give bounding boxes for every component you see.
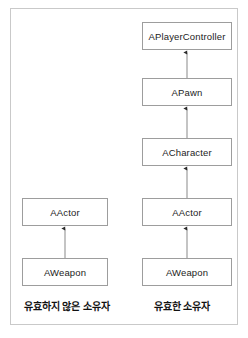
class-box-aweapon-left[interactable]: AWeapon (22, 258, 108, 286)
class-box-aweapon-right[interactable]: AWeapon (142, 258, 232, 286)
class-box-aplayercontroller[interactable]: APlayerController (142, 22, 232, 50)
class-box-aactor-right[interactable]: AActor (142, 198, 232, 226)
class-box-label: AActor (172, 207, 201, 218)
class-box-label: AActor (50, 207, 79, 218)
class-box-label: APlayerController (149, 31, 226, 42)
class-box-label: AWeapon (166, 267, 208, 278)
class-box-label: APawn (172, 87, 203, 98)
class-box-label: ACharacter (162, 147, 212, 158)
class-box-label: AWeapon (44, 267, 86, 278)
diagram-root: APlayerController APawn ACharacter AActo… (0, 0, 248, 338)
class-box-acharacter[interactable]: ACharacter (142, 138, 232, 166)
column-caption-valid-owner: 유효한 소유자 (130, 298, 234, 313)
class-box-aactor-left[interactable]: AActor (22, 198, 108, 226)
class-box-apawn[interactable]: APawn (142, 78, 232, 106)
column-caption-invalid-owner: 유효하지 않은 소유자 (10, 298, 124, 313)
